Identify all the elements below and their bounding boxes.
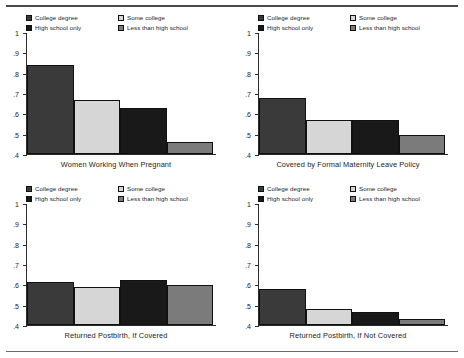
bar <box>74 287 121 325</box>
legend-swatch-icon <box>350 196 356 202</box>
y-axis-tick-label: .8 <box>245 241 251 248</box>
bar <box>167 285 214 325</box>
y-axis-tick-label: 1 <box>15 201 19 208</box>
legend-label: Some college <box>127 185 165 193</box>
y-axis-tick-label: .9 <box>13 221 19 228</box>
y-axis-tick: .9 <box>23 53 26 54</box>
bar-group <box>27 203 213 325</box>
y-axis-tick-label: .6 <box>13 111 19 118</box>
legend-item: Less than high school <box>118 194 222 203</box>
y-axis-tick-label: .6 <box>13 282 19 289</box>
bar-group <box>259 32 445 154</box>
legend-swatch-icon <box>258 25 264 31</box>
bar <box>259 289 306 325</box>
legend-label: High school only <box>35 195 81 203</box>
y-axis-tick-label: .8 <box>245 70 251 77</box>
legend-label: College degree <box>267 185 310 193</box>
legend: College degreeSome collegeHigh school on… <box>258 13 454 32</box>
legend-item: Less than high school <box>350 23 454 32</box>
legend-swatch-icon <box>350 25 356 31</box>
legend: College degreeSome collegeHigh school on… <box>26 13 222 32</box>
bar <box>167 142 214 154</box>
bar <box>120 108 167 154</box>
y-axis-tick-label: .7 <box>245 262 251 269</box>
legend-swatch-icon <box>258 15 264 21</box>
y-axis-tick-label: .7 <box>13 91 19 98</box>
legend-swatch-icon <box>26 25 32 31</box>
x-axis-line <box>258 325 448 326</box>
panel-title: Returned Postbirth, If Covered <box>0 331 232 340</box>
y-axis-tick-label: .8 <box>13 70 19 77</box>
y-axis-tick-label: .5 <box>13 131 19 138</box>
bar <box>352 120 399 154</box>
y-axis-tick-label: .9 <box>245 221 251 228</box>
y-axis-tick: 1 <box>255 33 258 34</box>
legend-swatch-icon <box>118 186 124 192</box>
y-axis-tick-label: .4 <box>13 323 19 330</box>
bar <box>120 280 167 325</box>
y-axis-tick: .9 <box>255 224 258 225</box>
legend-swatch-icon <box>350 15 356 21</box>
plot-area: .4.5.6.7.8.91 <box>258 204 448 326</box>
y-axis-tick-label: .5 <box>245 131 251 138</box>
legend-swatch-icon <box>258 186 264 192</box>
y-axis-tick: .5 <box>255 306 258 307</box>
y-axis-tick: .7 <box>23 94 26 95</box>
legend-swatch-icon <box>118 15 124 21</box>
legend-item: Some college <box>350 184 454 193</box>
bar-group <box>259 203 445 325</box>
legend-label: High school only <box>35 24 81 32</box>
bar <box>306 120 353 154</box>
x-axis-line <box>258 154 448 155</box>
legend-item: Some college <box>350 13 454 22</box>
panel-title: Returned Postbirth, If Not Covered <box>232 331 464 340</box>
legend-label: College degree <box>35 14 78 22</box>
y-axis-tick-label: .9 <box>245 50 251 57</box>
y-axis-tick-label: .5 <box>245 302 251 309</box>
legend-item: Less than high school <box>118 23 222 32</box>
y-axis-tick: .8 <box>23 245 26 246</box>
y-axis-tick-label: 1 <box>247 201 251 208</box>
legend-item: High school only <box>258 23 350 32</box>
y-axis-tick: .5 <box>255 135 258 136</box>
y-axis-tick: .7 <box>255 265 258 266</box>
legend-item: College degree <box>258 184 350 193</box>
plot-area: .4.5.6.7.8.91 <box>26 33 216 155</box>
legend-swatch-icon <box>26 196 32 202</box>
y-axis-tick: .6 <box>23 285 26 286</box>
y-axis-tick: .5 <box>23 306 26 307</box>
y-axis-tick: .8 <box>255 74 258 75</box>
legend-label: Less than high school <box>359 24 420 32</box>
y-axis-tick: 1 <box>23 204 26 205</box>
panel-title: Covered by Formal Maternity Leave Policy <box>232 160 464 169</box>
legend-label: College degree <box>35 185 78 193</box>
y-axis-tick: .6 <box>255 285 258 286</box>
legend-item: College degree <box>26 184 118 193</box>
legend-item: Some college <box>118 13 222 22</box>
legend-item: College degree <box>258 13 350 22</box>
y-axis-tick-label: .7 <box>245 91 251 98</box>
y-axis-tick: .9 <box>23 224 26 225</box>
y-axis-tick: 1 <box>255 204 258 205</box>
figure-panel-chart: College degreeSome collegeHigh school on… <box>0 0 464 358</box>
panel-title: Women Working When Pregnant <box>0 160 232 169</box>
y-axis-tick: .4 <box>255 326 258 327</box>
legend-label: Some college <box>127 14 165 22</box>
y-axis-tick: .4 <box>23 326 26 327</box>
y-axis-tick-label: .4 <box>245 323 251 330</box>
y-axis-tick: .8 <box>23 74 26 75</box>
legend-swatch-icon <box>26 186 32 192</box>
bar <box>27 65 74 154</box>
bar <box>259 98 306 154</box>
legend-label: Some college <box>359 185 397 193</box>
legend-label: Some college <box>359 14 397 22</box>
x-axis-line <box>26 325 216 326</box>
y-axis-tick: .4 <box>255 155 258 156</box>
legend: College degreeSome collegeHigh school on… <box>26 184 222 203</box>
legend-label: Less than high school <box>127 24 188 32</box>
y-axis-tick-label: .7 <box>13 262 19 269</box>
y-axis-tick: .5 <box>23 135 26 136</box>
chart-panel-2: College degreeSome collegeHigh school on… <box>232 8 464 179</box>
bar-group <box>27 32 213 154</box>
legend-label: High school only <box>267 195 313 203</box>
